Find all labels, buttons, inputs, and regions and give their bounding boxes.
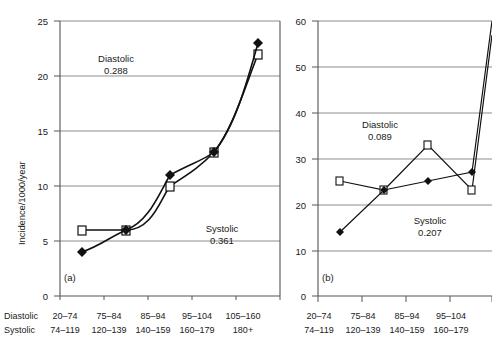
chart-panel-b: 60 50 40 30 20 10 0: [282, 0, 492, 350]
y-tick-b-40: 40: [282, 108, 306, 119]
y-tick-a-25: 25: [24, 16, 48, 27]
plot-area-a: [52, 0, 282, 300]
x-cat-b-s-4: 160–179: [424, 325, 478, 335]
y-tick-a-20: 20: [24, 71, 48, 82]
x-axis-row-diastolic-b: 20–74 75–84 85–94 95–104: [282, 311, 492, 324]
y-tick-b-20: 20: [282, 200, 306, 211]
y-tick-b-30: 30: [282, 154, 306, 165]
y-tick-a-0: 0: [24, 291, 48, 302]
chart-panel-a: Incidence/1000/year 25 20 15 10 5 0: [0, 0, 282, 350]
y-tick-b-0: 0: [282, 291, 306, 302]
panel-letter-b: (b): [322, 272, 334, 283]
axis-ticks-b: [312, 21, 492, 302]
x-cat-a-s-5: 180+: [214, 325, 272, 335]
annotation-diastolic-b-value: 0.089: [340, 131, 420, 143]
y-tick-b-10: 10: [282, 246, 306, 257]
figure-root: Incidence/1000/year 25 20 15 10 5 0: [0, 0, 492, 350]
y-tick-a-15: 15: [24, 126, 48, 137]
annotation-diastolic-b: Diastolic 0.089: [340, 119, 420, 142]
annotation-systolic-b-name: Systolic: [390, 215, 470, 227]
annotation-systolic-b-value: 0.207: [390, 227, 470, 239]
x-cat-a-d-5: 105–160: [214, 311, 272, 321]
x-axis-rowname-systolic-a: Systolic: [4, 325, 35, 335]
x-axis-rowname-diastolic-a: Diastolic: [4, 311, 38, 321]
y-tick-a-10: 10: [24, 181, 48, 192]
annotation-systolic-a-name: Systolic: [182, 223, 262, 235]
y-axis-label-a: Incidence/1000/year: [16, 161, 27, 245]
series-diastolic-a: [78, 50, 262, 235]
annotation-diastolic-a-name: Diastolic: [76, 53, 156, 65]
y-tick-a-5: 5: [24, 236, 48, 247]
x-axis-row-systolic-b: 74–119 120–139 140–159 160–179: [282, 325, 492, 338]
x-cat-b-d-4: 95–104: [424, 311, 478, 321]
annotation-systolic-a: Systolic 0.361: [182, 223, 262, 246]
plot-area-b: [310, 0, 492, 310]
annotation-systolic-b: Systolic 0.207: [390, 215, 470, 238]
x-axis-row-systolic-a: Systolic 74–119 120–139 140–159 160–179 …: [4, 325, 282, 338]
series-diastolic-b: [336, 35, 492, 194]
y-tick-b-60: 60: [282, 16, 306, 27]
annotation-diastolic-a-value: 0.288: [76, 65, 156, 77]
annotation-systolic-a-value: 0.361: [182, 235, 262, 247]
annotation-diastolic-a: Diastolic 0.288: [76, 53, 156, 76]
x-axis-row-diastolic-a: Diastolic 20–74 75–84 85–94 95–104 105–1…: [4, 311, 282, 324]
annotation-diastolic-b-name: Diastolic: [340, 119, 420, 131]
y-tick-b-50: 50: [282, 62, 306, 73]
panel-letter-a: (a): [64, 272, 76, 283]
